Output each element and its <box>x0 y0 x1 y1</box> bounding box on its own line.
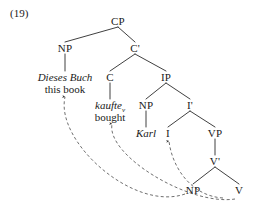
tree-node-i: I <box>166 128 170 139</box>
tree-node-np2: NP <box>139 100 153 111</box>
branch-ip-np2 <box>146 83 166 99</box>
tree-node-np1: NP <box>58 43 72 54</box>
branch-vbar-np3 <box>193 167 215 184</box>
tree-node-vp: VP <box>208 128 222 139</box>
terminal-source-kaufte: kauftev <box>95 100 125 111</box>
terminal-gloss-dieses-buch: this book <box>45 84 86 95</box>
branch-cbar-ip <box>135 54 166 71</box>
movement-arc-layer <box>64 97 235 200</box>
branch-vbar-v <box>215 167 239 184</box>
terminal-source-karl: Karl <box>136 128 156 139</box>
branch-ibar-i <box>168 111 190 127</box>
branch-cp-cbar <box>118 27 135 42</box>
tree-node-vbar: V' <box>210 156 220 167</box>
tree-node-v: V <box>235 185 243 196</box>
tree-node-cp: CP <box>111 16 125 27</box>
terminal-source-text: kaufte <box>95 99 122 111</box>
branch-cp-np1 <box>65 27 118 42</box>
branch-ibar-vp <box>190 111 215 127</box>
tree-node-ip: IP <box>161 72 171 83</box>
tree-node-cbar: C' <box>130 43 140 54</box>
syntax-tree-figure: (19) CPNPC'CIPNPI'IVPV'NPVDieses Buchthi… <box>0 0 259 222</box>
terminal-source-dieses-buch: Dieses Buch <box>38 72 93 83</box>
tree-lines <box>0 0 259 222</box>
branch-ip-ibar <box>166 83 190 99</box>
branch-cbar-c <box>110 54 135 71</box>
terminal-gloss-kaufte: bought <box>95 112 126 123</box>
tree-node-c: C <box>106 72 114 83</box>
tree-node-ibar: I' <box>187 100 193 111</box>
tree-node-np3: NP <box>186 185 200 196</box>
